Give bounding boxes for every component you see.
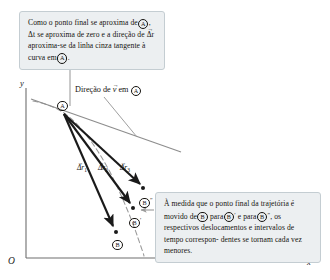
direction-point-A-label: A [131, 86, 141, 96]
callout-right-circle-B-prime: B [224, 212, 234, 222]
point-B-label: B [112, 240, 122, 250]
endpoint-dot-B-double-prime [141, 186, 145, 190]
point-marker-B: B [112, 240, 123, 250]
figure-canvas: A B B′ B″ y x O Direção de →v em A →Δr1 … [0, 0, 330, 280]
callout-top-line3-a: direção de [112, 30, 144, 39]
point-B-double-prime-tick: ″ [150, 196, 153, 203]
y-axis-label: y [20, 78, 24, 88]
callout-top-line1: Como o ponto final se aproxima [28, 18, 128, 27]
point-marker-B-prime: B′ [129, 216, 141, 228]
point-B-prime-tick: ′ [140, 216, 141, 223]
callout-top-line2-a: de [130, 18, 137, 27]
trajectory-curve [33, 101, 144, 256]
point-A-label: A [57, 101, 67, 111]
direction-of-v-annotation: Direção de →v em A [75, 85, 141, 96]
endpoint-dot-B-prime [131, 206, 135, 210]
delta-r-1-symbol: →Δr [77, 163, 84, 172]
delta-r-2-symbol: →Δr [98, 163, 105, 172]
callout-right-prime-tick: ′ [234, 211, 235, 218]
endpoint-dot-B [114, 230, 118, 234]
point-B-prime-label: B [129, 218, 139, 228]
callout-right-line2-b: para [210, 212, 223, 221]
point-B-double-prime-label: B [139, 198, 149, 208]
callout-right-circle-B-double-prime: B [257, 212, 267, 222]
callout-top-line4-b: . [68, 53, 70, 62]
delta-r-3-arrow-icon: → [120, 160, 127, 166]
direction-prefix-text: Direção de [75, 85, 111, 94]
delta-r-2-label: →Δr2 [98, 163, 108, 173]
tangent-line-at-A [31, 99, 181, 152]
delta-r-1-label: →Δr1 [77, 163, 87, 173]
callout-right-circle-B: B [197, 212, 207, 222]
leader-top-callout [66, 65, 74, 106]
delta-r-1-arrow-icon: → [77, 160, 84, 166]
delta-r-2-subscript: 2 [105, 167, 108, 173]
delta-r-3-symbol: →Δr [120, 163, 127, 172]
origin-label: O [8, 256, 15, 266]
direction-mid-text: em [118, 85, 128, 94]
delta-r-3-label: →Δr3 [120, 163, 130, 173]
callout-right-line2-c: e [238, 212, 241, 221]
delta-r-3-subscript: 3 [127, 167, 130, 173]
point-marker-B-double-prime: B″ [139, 196, 153, 208]
callout-right-line3-a: para [243, 212, 256, 221]
callout-top-line3-b: aproxima-se da linha [28, 41, 93, 50]
point-marker-A: A [57, 101, 68, 111]
v-vector-arrow-icon: → [113, 82, 117, 88]
delta-r-1-subscript: 1 [84, 167, 87, 173]
callout-right-line1: À medida que o ponto final da [164, 199, 259, 208]
callout-endpoint-explanation: À medida que o ponto final da trajetória… [155, 192, 321, 263]
v-vector-symbol: →v [113, 85, 117, 94]
callout-top-circle-A-2: A [57, 53, 67, 63]
callout-top-delta-r-arrow-icon: → [147, 26, 155, 32]
delta-r-2-arrow-icon: → [98, 160, 105, 166]
callout-top-delta-r-symbol: →Δr [147, 29, 155, 41]
callout-limit-explanation: Como o ponto final se aproxima deA, Δt s… [19, 11, 165, 70]
